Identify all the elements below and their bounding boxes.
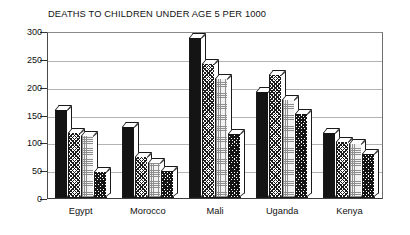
bar[interactable] xyxy=(81,135,94,198)
bar-group xyxy=(55,33,113,198)
bar[interactable] xyxy=(336,141,349,198)
bar[interactable] xyxy=(323,132,336,198)
bar-side-face xyxy=(374,151,379,197)
bar[interactable] xyxy=(68,132,81,198)
x-axis-tick-label: Mali xyxy=(206,206,223,216)
bar-side-face xyxy=(307,110,312,197)
x-axis-tick-label: Egypt xyxy=(69,206,93,216)
bar[interactable] xyxy=(349,143,362,198)
bar[interactable] xyxy=(135,156,148,198)
y-axis-tick-label: 50 xyxy=(32,166,42,176)
bar[interactable] xyxy=(295,113,308,198)
bar[interactable] xyxy=(215,78,228,198)
x-axis-tick-label: Kenya xyxy=(336,206,362,216)
y-axis-tick-label: 200 xyxy=(27,83,42,93)
x-axis-tick-label: Uganda xyxy=(266,206,299,216)
y-axis-tick-label: 0 xyxy=(37,194,42,204)
bar[interactable] xyxy=(362,153,375,198)
chart-title: DEATHS TO CHILDREN UNDER AGE 5 PER 1000 xyxy=(48,9,266,19)
bar-group xyxy=(256,33,314,198)
bar-side-face xyxy=(106,168,111,197)
bar-side-face xyxy=(240,130,245,197)
bar-side-face xyxy=(173,167,178,197)
bar[interactable] xyxy=(228,133,241,198)
bar[interactable] xyxy=(148,162,161,198)
bar-group xyxy=(323,33,381,198)
bar-group xyxy=(189,33,247,198)
x-axis-tick-label: Morocco xyxy=(130,206,166,216)
bar[interactable] xyxy=(189,37,202,198)
y-axis-tick-label: 100 xyxy=(27,138,42,148)
bar[interactable] xyxy=(55,109,68,198)
bar[interactable] xyxy=(202,63,215,198)
bar[interactable] xyxy=(256,91,269,198)
bar[interactable] xyxy=(94,171,107,198)
y-axis-tick-label: 250 xyxy=(27,55,42,65)
bar-chart-figure: DEATHS TO CHILDREN UNDER AGE 5 PER 1000 … xyxy=(0,0,410,235)
bar-group xyxy=(122,33,180,198)
plot-area xyxy=(47,32,383,199)
y-axis-tick-label: 150 xyxy=(27,111,42,121)
bar[interactable] xyxy=(269,74,282,198)
bar[interactable] xyxy=(161,170,174,198)
bar[interactable] xyxy=(122,126,135,198)
y-axis-tick-label: 300 xyxy=(27,27,42,37)
bar[interactable] xyxy=(282,99,295,198)
